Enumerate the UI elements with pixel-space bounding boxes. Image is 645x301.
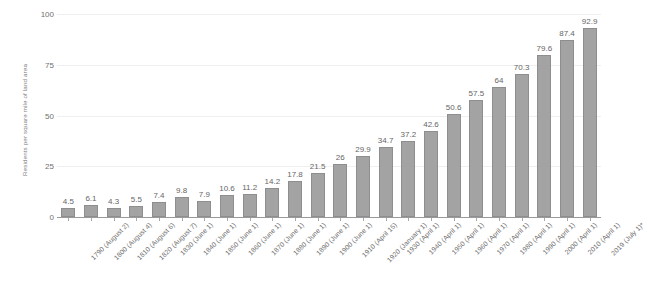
- y-axis-tick-label: 50: [45, 111, 54, 120]
- bar-series: 4.56.14.35.57.49.87.910.611.214.217.821.…: [57, 14, 601, 217]
- x-axis-tick-mark: [431, 218, 432, 221]
- bar[interactable]: [469, 100, 483, 217]
- x-axis-tick-mark: [204, 218, 205, 221]
- y-axis-tick-label: 100: [41, 10, 54, 19]
- bar[interactable]: [129, 206, 143, 217]
- bar[interactable]: [537, 55, 551, 217]
- bar[interactable]: [515, 74, 529, 217]
- bar[interactable]: [424, 131, 438, 217]
- bar[interactable]: [197, 201, 211, 217]
- x-axis-tick-mark: [363, 218, 364, 221]
- bar-value-label: 87.4: [550, 29, 584, 38]
- bar-slot: 87.4: [560, 14, 574, 217]
- y-axis-tick-labels: 0255075100: [28, 10, 54, 220]
- bar-slot: 26: [333, 14, 347, 217]
- bar[interactable]: [84, 205, 98, 217]
- bar-value-label: 64: [482, 76, 516, 85]
- bar[interactable]: [492, 87, 506, 217]
- bar-slot: 79.6: [537, 14, 551, 217]
- bar[interactable]: [61, 208, 75, 217]
- bar-value-label: 26: [323, 153, 357, 162]
- x-axis-tick-mark: [386, 218, 387, 221]
- x-axis-tick-mark: [567, 218, 568, 221]
- bar-value-label: 50.6: [437, 103, 471, 112]
- bar[interactable]: [447, 114, 461, 217]
- bar[interactable]: [107, 208, 121, 217]
- x-axis-tick-mark: [136, 218, 137, 221]
- bar-slot: 42.6: [424, 14, 438, 217]
- bar[interactable]: [152, 202, 166, 217]
- x-axis-tick-labels: 1790 (August 2)1800 (August 4)1810 (Augu…: [57, 221, 601, 301]
- y-axis-tick-label: 0: [50, 213, 54, 222]
- bar-value-label: 37.2: [391, 130, 425, 139]
- bar[interactable]: [560, 40, 574, 217]
- bar-slot: 6.1: [84, 14, 98, 217]
- x-axis-tick-mark: [159, 218, 160, 221]
- bar[interactable]: [583, 28, 597, 217]
- bar-slot: 34.7: [379, 14, 393, 217]
- bar[interactable]: [401, 141, 415, 217]
- bar-slot: 5.5: [129, 14, 143, 217]
- bar-slot: 92.9: [583, 14, 597, 217]
- x-axis-tick-mark: [318, 218, 319, 221]
- y-axis-tick-label: 75: [45, 60, 54, 69]
- x-axis-tick-mark: [544, 218, 545, 221]
- bar[interactable]: [175, 197, 189, 217]
- bar[interactable]: [333, 164, 347, 217]
- x-axis-tick-mark: [250, 218, 251, 221]
- x-axis-tick-mark: [91, 218, 92, 221]
- bar-slot: 64: [492, 14, 506, 217]
- bar[interactable]: [311, 173, 325, 217]
- bar[interactable]: [265, 188, 279, 217]
- x-axis-tick-mark: [68, 218, 69, 221]
- x-axis-tick-mark: [454, 218, 455, 221]
- bar-slot: 57.5: [469, 14, 483, 217]
- x-axis-tick-mark: [476, 218, 477, 221]
- bar-slot: 17.8: [288, 14, 302, 217]
- bar-slot: 14.2: [265, 14, 279, 217]
- bar-value-label: 21.5: [301, 162, 335, 171]
- bar[interactable]: [243, 194, 257, 217]
- bar-slot: 29.9: [356, 14, 370, 217]
- bar-slot: 9.8: [175, 14, 189, 217]
- bar-value-label: 57.5: [459, 89, 493, 98]
- x-axis-tick-mark: [522, 218, 523, 221]
- bar[interactable]: [288, 181, 302, 217]
- x-axis-tick-mark: [340, 218, 341, 221]
- bar[interactable]: [356, 156, 370, 217]
- bar-value-label: 92.9: [573, 17, 607, 26]
- bar-slot: 4.3: [107, 14, 121, 217]
- x-axis-tick-mark: [272, 218, 273, 221]
- x-axis-tick-mark: [590, 218, 591, 221]
- bar-value-label: 42.6: [414, 120, 448, 129]
- bar-slot: 50.6: [447, 14, 461, 217]
- x-axis-tick-mark: [227, 218, 228, 221]
- bar-slot: 37.2: [401, 14, 415, 217]
- x-axis-tick-mark: [408, 218, 409, 221]
- bar[interactable]: [220, 195, 234, 217]
- bar-slot: 11.2: [243, 14, 257, 217]
- x-axis-tick-mark: [295, 218, 296, 221]
- bar[interactable]: [379, 147, 393, 217]
- x-axis-tick-mark: [182, 218, 183, 221]
- bar-value-label: 29.9: [346, 145, 380, 154]
- bar-value-label: 79.6: [527, 44, 561, 53]
- bar-value-label: 70.3: [505, 63, 539, 72]
- bar-slot: 4.5: [61, 14, 75, 217]
- x-axis-tick-label: 1790 (August 2): [90, 221, 130, 261]
- bar-slot: 21.5: [311, 14, 325, 217]
- y-axis-tick-label: 25: [45, 162, 54, 171]
- x-axis-line: [57, 217, 601, 218]
- x-axis-tick-mark: [114, 218, 115, 221]
- x-axis-tick-mark: [499, 218, 500, 221]
